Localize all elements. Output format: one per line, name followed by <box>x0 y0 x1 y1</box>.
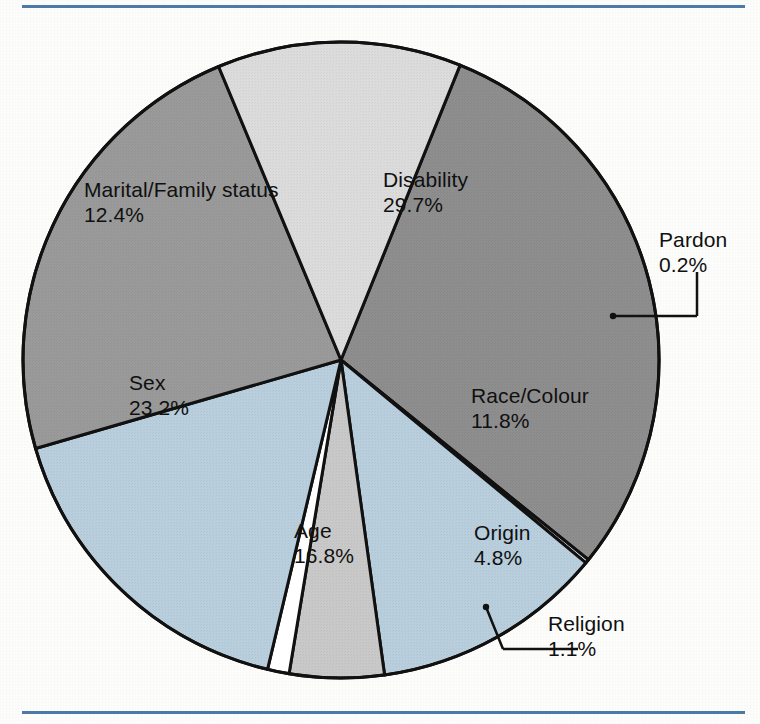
slice-label-value: 23.2% <box>129 396 189 421</box>
slice-label-name: Marital/Family status <box>84 178 279 203</box>
slice-label-value: 29.7% <box>383 193 468 218</box>
pie-slices-group <box>23 42 659 678</box>
figure-page: Disability 29.7% Pardon 0.2% Race/Colour… <box>0 0 760 724</box>
slice-label-value: 1.1% <box>548 637 625 662</box>
slice-label-value: 12.4% <box>84 203 279 228</box>
pardon-leader-dot <box>610 313 616 319</box>
slice-label-name: Pardon <box>659 228 727 253</box>
slice-label-pardon: Pardon 0.2% <box>659 228 727 278</box>
slice-label-value: 11.8% <box>471 409 589 434</box>
slice-label-name: Origin <box>474 521 531 546</box>
slice-label-disability: Disability 29.7% <box>383 168 468 218</box>
slice-label-age: Age 16.8% <box>294 519 354 569</box>
slice-label-value: 0.2% <box>659 253 727 278</box>
slice-label-religion: Religion 1.1% <box>548 612 625 662</box>
slice-label-origin: Origin 4.8% <box>474 521 531 571</box>
pie-chart: Disability 29.7% Pardon 0.2% Race/Colour… <box>0 0 760 724</box>
slice-label-name: Race/Colour <box>471 384 589 409</box>
slice-label-race-colour: Race/Colour 11.8% <box>471 384 589 434</box>
slice-label-value: 4.8% <box>474 546 531 571</box>
slice-label-sex: Sex 23.2% <box>129 371 189 421</box>
pie-chart-svg <box>0 0 760 724</box>
slice-label-name: Age <box>294 519 354 544</box>
slice-label-value: 16.8% <box>294 544 354 569</box>
slice-label-marital-family-status: Marital/Family status 12.4% <box>84 178 279 228</box>
religion-leader-dot <box>483 604 489 610</box>
slice-label-name: Religion <box>548 612 625 637</box>
slice-label-name: Disability <box>383 168 468 193</box>
slice-label-name: Sex <box>129 371 189 396</box>
